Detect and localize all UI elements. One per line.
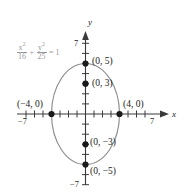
- point-0-3: [82, 81, 88, 87]
- tick-label-y-positive-7: 7: [74, 39, 78, 48]
- point-0-5: [82, 60, 88, 66]
- ellipse-graph-figure: x2 16 + y2 25 = 1 (0, 5) (0, 3) (4, 0) (…: [0, 0, 188, 196]
- tick-label-x-negative-7: −7: [18, 117, 27, 126]
- equation-denominator-16: 16: [17, 52, 27, 61]
- equation-equals-one: = 1: [49, 49, 60, 57]
- point-neg4-0: [48, 111, 54, 117]
- x-axis-arrowhead: [160, 111, 169, 118]
- equation-fraction-x: x2 16: [17, 44, 27, 61]
- equation-numerator-y: y2: [37, 44, 46, 52]
- x-axis-label: x: [172, 110, 176, 119]
- point-0-neg5: [82, 161, 88, 167]
- point-label-0-neg5: (0, −5): [90, 167, 116, 177]
- point-0-neg3: [82, 141, 88, 147]
- equation-fraction-y: y2 25: [37, 44, 47, 61]
- ellipse-equation-annotation: x2 16 + y2 25 = 1: [16, 44, 61, 61]
- equation-x-exponent: 2: [23, 41, 26, 47]
- tick-label-y-negative-7: −7: [70, 180, 79, 189]
- equation-plus-operator: +: [30, 49, 35, 57]
- equation-y-exponent: 2: [42, 41, 45, 47]
- point-label-0-3: (0, 3): [92, 79, 113, 89]
- point-4-0: [116, 111, 122, 117]
- y-axis-arrowhead: [82, 31, 89, 40]
- point-label-4-0: (4, 0): [123, 100, 144, 110]
- equation-numerator-x: x2: [18, 44, 27, 52]
- tick-label-x-positive-7: 7: [150, 117, 154, 126]
- equation-denominator-25: 25: [37, 52, 47, 61]
- point-label-0-neg3: (0, −3): [90, 138, 116, 148]
- point-label-neg4-0: (−4, 0): [17, 100, 43, 110]
- y-axis-label: y: [88, 18, 92, 27]
- point-label-0-5: (0, 5): [92, 57, 113, 67]
